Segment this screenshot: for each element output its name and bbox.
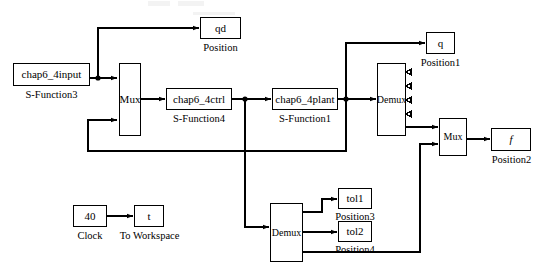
block-label: Mux (120, 94, 141, 105)
caption-position: Position (196, 43, 245, 54)
block-f[interactable]: f (491, 128, 531, 151)
block-label: 40 (85, 211, 96, 222)
block-tol2[interactable]: tol2 (338, 221, 372, 242)
block-q[interactable]: q (426, 32, 455, 54)
caption-clock: Clock (68, 231, 112, 242)
block-label: Mux (444, 132, 463, 142)
block-demux-top[interactable]: Demux (377, 63, 406, 136)
block-chap6-4ctrl[interactable]: chap6_4ctrl (166, 88, 232, 110)
caption-s-function1: S-Function1 (272, 114, 338, 125)
caption-position4: Position4 (329, 245, 381, 256)
block-label: tol1 (346, 193, 363, 204)
block-to-workspace[interactable]: t (134, 205, 164, 227)
block-demux-bottom[interactable]: Demux (270, 203, 303, 262)
block-mux-right[interactable]: Mux (439, 118, 467, 156)
block-label: f (509, 134, 512, 145)
block-label: qd (215, 23, 226, 34)
block-label: chap6_4plant (275, 94, 334, 105)
caption-s-function3: S-Function3 (13, 90, 90, 101)
block-label: tol2 (346, 226, 363, 237)
block-label: Demux (377, 95, 406, 105)
caption-s-function4: S-Function4 (166, 114, 232, 125)
caption-position1: Position1 (415, 58, 466, 69)
junction-dot-plant (343, 96, 348, 101)
junction-dot-ctrl (242, 96, 247, 101)
block-qd[interactable]: qd (200, 17, 241, 39)
block-label: chap6_4ctrl (173, 94, 225, 105)
caption-position2: Position2 (486, 155, 537, 166)
block-diagram-canvas: chap6_4input S-Function3 Mux chap6_4ctrl… (0, 0, 545, 277)
caption-to-workspace: To Workspace (112, 231, 187, 242)
block-chap6-4plant[interactable]: chap6_4plant (272, 88, 338, 110)
block-label: q (438, 38, 444, 49)
block-tol1[interactable]: tol1 (338, 188, 372, 209)
block-clock[interactable]: 40 (73, 205, 107, 227)
block-mux-left[interactable]: Mux (119, 63, 141, 136)
junction-dot-input (95, 75, 100, 80)
block-label: Demux (272, 228, 301, 238)
block-label: chap6_4input (22, 69, 82, 80)
block-chap6-4input[interactable]: chap6_4input (13, 63, 90, 86)
block-label: t (147, 211, 150, 222)
